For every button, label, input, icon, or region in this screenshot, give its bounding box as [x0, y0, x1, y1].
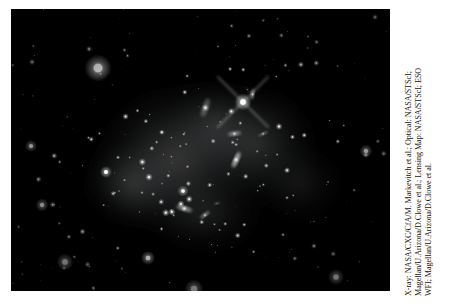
credit-line-3: WFI; Magellan/U.Arizona/D.Clowe et al.: [425, 163, 433, 296]
credit-line-1: X-ray: NASA/CXC/CfA/M. Markevitch et al.…: [405, 71, 413, 296]
starfield-svg: [11, 9, 390, 291]
astronomy-image-plate: [11, 9, 390, 291]
page-root: X-ray: NASA/CXC/CfA/M. Markevitch et al.…: [0, 0, 449, 307]
credit-line-2: Magellan/U.Arizona/D.Clowe et al.; Lensi…: [415, 68, 423, 296]
vignette-overlay: [11, 9, 390, 291]
credit-caption: X-ray: NASA/CXC/CfA/M. Markevitch et al.…: [391, 9, 449, 299]
